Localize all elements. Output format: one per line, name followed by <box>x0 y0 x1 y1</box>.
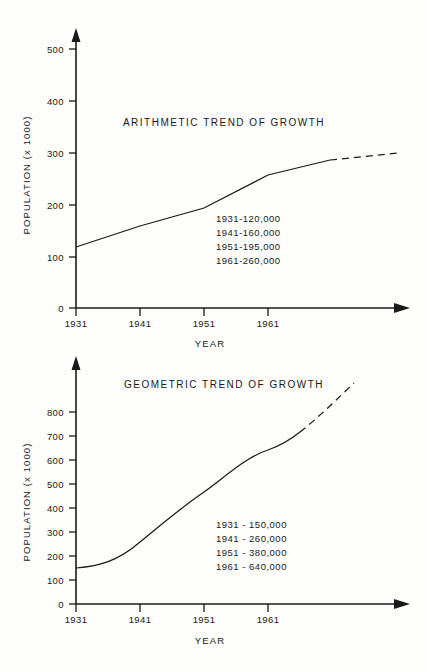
y-axis-geometric <box>72 356 81 604</box>
y-ticks-geometric <box>69 412 76 604</box>
x-tick-label: 1961 <box>257 614 280 625</box>
y-tick-label: 100 <box>47 252 64 263</box>
annotation-line: 1931 - 150,000 <box>216 519 287 530</box>
y-tick-label: 300 <box>47 148 64 159</box>
y-tick-label: 200 <box>47 200 64 211</box>
y-tick-label: 0 <box>58 599 64 610</box>
chart-title: GEOMETRIC TREND OF GROWTH <box>124 379 324 390</box>
y-tick-label: 500 <box>47 479 64 490</box>
chart-arithmetic-trend: 500 400 300 200 100 0 1931 1941 1951 196… <box>0 0 428 352</box>
y-axis-title: POPULATION (x 1000) <box>21 116 32 235</box>
trend-line-projection <box>330 153 398 160</box>
x-tick-label: 1951 <box>193 318 216 329</box>
trend-line-solid <box>76 160 330 247</box>
y-tick-label: 700 <box>47 431 64 442</box>
x-tick-label: 1941 <box>129 614 152 625</box>
y-axis-arithmetic <box>72 28 81 308</box>
trend-curve-projection <box>300 383 354 432</box>
x-ticks-geometric <box>76 604 268 612</box>
figure-page: 500 400 300 200 100 0 1931 1941 1951 196… <box>0 0 428 671</box>
annotation-line: 1931-120,000 <box>216 213 281 224</box>
x-axis-arrowhead-icon <box>394 599 410 609</box>
x-ticks-arithmetic <box>76 308 268 316</box>
y-tick-label: 600 <box>47 455 64 466</box>
arithmetic-chart-svg: 500 400 300 200 100 0 1931 1941 1951 196… <box>0 0 428 352</box>
y-tick-label: 500 <box>47 44 64 55</box>
annotation-line: 1941 - 260,000 <box>216 533 287 544</box>
x-axis-arrowhead-icon <box>394 303 410 313</box>
x-tick-label: 1931 <box>65 614 88 625</box>
x-axis-title: YEAR <box>195 338 225 349</box>
annotation-line: 1941-160,000 <box>216 227 281 238</box>
annotation-line: 1961 - 640,000 <box>216 561 287 572</box>
annotation-line: 1951 - 380,000 <box>216 547 287 558</box>
geometric-chart-svg: 800 700 600 500 400 300 200 100 0 1931 1… <box>0 352 428 671</box>
chart-title: ARITHMETIC TREND OF GROWTH <box>123 117 325 128</box>
y-tick-label: 100 <box>47 575 64 586</box>
y-tick-label: 0 <box>58 303 64 314</box>
x-tick-label: 1941 <box>129 318 152 329</box>
y-tick-label: 400 <box>47 503 64 514</box>
chart-geometric-trend: 800 700 600 500 400 300 200 100 0 1931 1… <box>0 352 428 671</box>
x-tick-label: 1931 <box>65 318 88 329</box>
y-axis-arrowhead-icon <box>72 28 81 42</box>
annotation-line: 1961-260,000 <box>216 255 281 266</box>
annotation-line: 1951-195,000 <box>216 241 281 252</box>
y-tick-label: 800 <box>47 407 64 418</box>
x-axis-title: YEAR <box>195 635 225 646</box>
y-axis-arrowhead-icon <box>72 356 81 370</box>
y-tick-label: 200 <box>47 551 64 562</box>
y-tick-label: 300 <box>47 527 64 538</box>
y-tick-label: 400 <box>47 96 64 107</box>
x-axis-geometric <box>76 599 410 609</box>
x-tick-label: 1961 <box>257 318 280 329</box>
y-ticks-arithmetic <box>69 49 76 308</box>
y-axis-title: POPULATION (x 1000) <box>21 443 32 562</box>
x-tick-label: 1951 <box>193 614 216 625</box>
x-axis-arithmetic <box>76 303 410 313</box>
